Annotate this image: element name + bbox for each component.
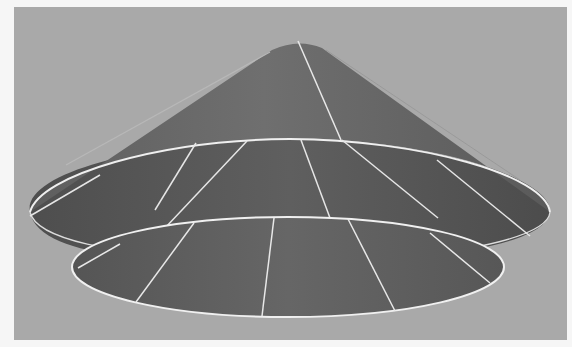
lower-disc	[72, 217, 504, 317]
render-viewport	[14, 7, 567, 340]
scene-canvas	[14, 7, 567, 340]
